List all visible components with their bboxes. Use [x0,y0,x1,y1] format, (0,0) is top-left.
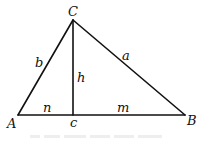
label-vertex-a: A [6,116,16,131]
label-segment-n: n [43,100,51,115]
label-side-a: a [122,48,130,63]
label-side-c: c [70,115,78,130]
label-vertex-c: C [68,4,78,19]
label-segment-m: m [117,100,129,115]
label-side-b: b [35,55,43,70]
faint-caption [30,135,162,138]
label-altitude-h: h [77,70,85,85]
label-vertex-b: B [186,113,197,128]
triangle-diagram: C b a h n m A B c [0,0,197,142]
